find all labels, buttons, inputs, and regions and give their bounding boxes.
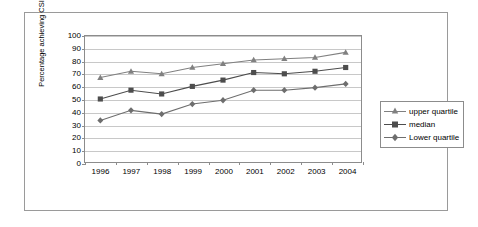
- legend-item-upper-quartile: upper quartile: [384, 105, 459, 118]
- x-tick-mark: [178, 162, 179, 165]
- y-tick-label: 100: [57, 32, 81, 40]
- series-upper-quartile: [97, 49, 348, 80]
- x-tick-mark: [209, 162, 210, 165]
- legend-label: median: [409, 120, 435, 129]
- data-point: [128, 88, 133, 93]
- legend-item-median: median: [384, 118, 459, 131]
- x-tick-mark: [239, 162, 240, 165]
- x-tick-label: 1998: [147, 168, 177, 176]
- legend-label: Lower quartile: [409, 133, 459, 142]
- data-point: [128, 68, 134, 74]
- y-tick-label: 10: [57, 147, 81, 155]
- x-tick-mark: [147, 162, 148, 165]
- y-tick-label: 80: [57, 58, 81, 66]
- data-point: [343, 65, 348, 70]
- x-tick-label: 1999: [178, 168, 208, 176]
- y-tick-label: 20: [57, 134, 81, 142]
- x-tick-mark: [116, 162, 117, 165]
- series-median: [98, 65, 349, 102]
- series-plot: [85, 36, 361, 162]
- data-point: [220, 78, 225, 83]
- data-point: [159, 111, 165, 117]
- chart-legend: upper quartile median Lower quartile: [380, 101, 464, 148]
- data-point: [251, 70, 256, 75]
- legend-item-lower-quartile: Lower quartile: [384, 131, 459, 144]
- x-tick-mark: [270, 162, 271, 165]
- data-point: [128, 107, 134, 113]
- y-axis-title: Percentage achieving CSI: [37, 0, 46, 108]
- chart-frame: 0102030405060708090100 19961997199819992…: [24, 12, 448, 211]
- y-tick-label: 40: [57, 109, 81, 117]
- data-point: [189, 101, 195, 107]
- x-tick-mark: [301, 162, 302, 165]
- y-tick-label: 90: [57, 45, 81, 53]
- x-tick-label: 1996: [85, 168, 115, 176]
- data-point: [98, 96, 103, 101]
- x-tick-label: 2004: [333, 168, 363, 176]
- legend-swatch-diamond: [384, 132, 406, 143]
- x-tick-label: 2002: [271, 168, 301, 176]
- data-point: [281, 87, 287, 93]
- plot-area: 0102030405060708090100 19961997199819992…: [84, 35, 362, 163]
- data-point: [282, 71, 287, 76]
- data-point: [343, 81, 349, 87]
- series-lower-quartile: [97, 81, 348, 124]
- x-tick-mark: [363, 162, 364, 165]
- data-point: [190, 84, 195, 89]
- x-tick-label: 2001: [240, 168, 270, 176]
- legend-swatch-square: [384, 119, 406, 130]
- data-point: [220, 97, 226, 103]
- x-tick-mark: [85, 162, 86, 165]
- x-tick-mark: [332, 162, 333, 165]
- y-tick-label: 30: [57, 122, 81, 130]
- x-tick-label: 2000: [209, 168, 239, 176]
- x-tick-label: 2003: [302, 168, 332, 176]
- y-tick-label: 0: [57, 160, 81, 168]
- data-point: [312, 69, 317, 74]
- data-point: [312, 85, 318, 91]
- x-tick-label: 1997: [116, 168, 146, 176]
- data-point: [343, 49, 349, 55]
- data-point: [251, 87, 257, 93]
- data-point: [97, 117, 103, 123]
- y-tick-label: 70: [57, 70, 81, 78]
- data-point: [159, 91, 164, 96]
- legend-label: upper quartile: [409, 107, 458, 116]
- y-tick-label: 50: [57, 96, 81, 104]
- legend-swatch-triangle: [384, 106, 406, 117]
- y-tick-label: 60: [57, 83, 81, 91]
